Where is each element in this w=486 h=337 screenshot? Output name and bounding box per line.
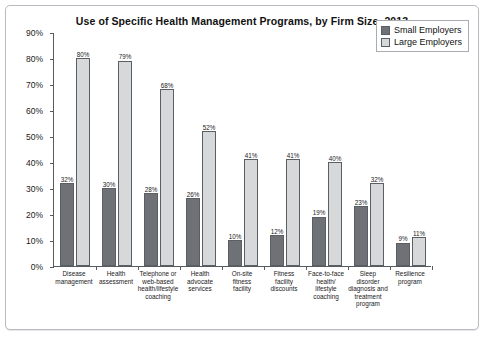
x-axis-category-label: Face-to-facehealth/lifestylecoaching [305,270,347,300]
bar-large-employers[interactable]: 80% [76,58,90,266]
bar-value-label: 26% [187,192,200,198]
x-axis-category-label: Diseasemanagement [53,270,95,285]
bar-value-label: 52% [203,125,216,131]
bar-group: 32%80% [54,33,96,266]
y-tick-mark [50,163,54,164]
y-tick-mark [50,85,54,86]
bar-group: 23%32% [348,33,390,266]
x-axis-category-label: Healthassessment [95,270,137,285]
bar-small-employers[interactable]: 26% [186,198,200,266]
bar-value-label: 68% [161,83,174,89]
bar-value-label: 11% [413,231,425,237]
bar-value-label: 41% [287,153,300,159]
legend-item-small-employers[interactable]: Small Employers [381,24,462,36]
y-tick-label: 70% [26,80,43,90]
bar-value-label: 9% [398,236,407,242]
bar-small-employers[interactable]: 9% [396,243,410,266]
bar-group: 19%40% [306,33,348,266]
bar-group: 30%79% [96,33,138,266]
y-tick-label: 0% [31,262,43,272]
y-tick-mark [50,241,54,242]
bar-small-employers[interactable]: 30% [102,188,116,266]
y-tick-label: 60% [26,106,43,116]
bar-small-employers[interactable]: 23% [354,206,368,266]
x-axis-category-label: Resilienceprogram [389,270,431,285]
bar-large-employers[interactable]: 32% [370,183,384,266]
bar-group: 12%41% [264,33,306,266]
y-tick-label: 80% [26,54,43,64]
y-tick-label: 20% [26,210,43,220]
bar-group: 9%11% [390,33,432,266]
bar-large-employers[interactable]: 68% [160,89,174,266]
y-tick-mark [50,59,54,60]
bar-large-employers[interactable]: 52% [202,131,216,266]
y-tick-mark [50,189,54,190]
x-axis-category-label: On-sitefitnessfacility [221,270,263,293]
bar-small-employers[interactable]: 32% [60,183,74,266]
bar-value-label: 30% [103,182,116,188]
bar-large-employers[interactable]: 11% [412,237,426,266]
y-tick-mark [50,111,54,112]
bar-group: 28%68% [138,33,180,266]
plot-area: 32%80%30%79%28%68%26%52%10%41%12%41%19%4… [53,33,431,267]
chart-legend: Small Employers Large Employers [376,20,469,52]
bar-small-employers[interactable]: 28% [144,193,158,266]
bar-value-label: 23% [355,200,368,206]
y-axis: 90%80%70%60%50%40%30%20%10%0% [6,33,49,267]
legend-label-large-employers: Large Employers [394,37,462,47]
x-axis-category-labels: DiseasemanagementHealthassessmentTelepho… [53,270,431,328]
bar-value-label: 32% [371,177,384,183]
legend-label-small-employers: Small Employers [394,25,462,35]
y-tick-mark [50,215,54,216]
bar-value-label: 28% [145,187,158,193]
bar-value-label: 40% [329,156,342,162]
y-tick-label: 90% [26,28,43,38]
bar-value-label: 80% [77,52,90,58]
x-tick-mark [432,266,433,270]
bar-value-label: 32% [61,177,74,183]
bar-value-label: 12% [271,229,284,235]
y-tick-label: 10% [26,236,43,246]
x-axis-category-label: Healthadvocateservices [179,270,221,293]
bars-layer: 32%80%30%79%28%68%26%52%10%41%12%41%19%4… [54,33,431,266]
bar-small-employers[interactable]: 10% [228,240,242,266]
y-tick-mark [50,267,54,268]
legend-swatch-icon-small-employers [381,26,390,35]
y-tick-label: 50% [26,132,43,142]
bar-value-label: 10% [229,234,242,240]
y-tick-label: 30% [26,184,43,194]
x-axis-category-label: Sleepdisorderdiagnosis andtreatmentprogr… [347,270,389,308]
bar-value-label: 41% [245,153,258,159]
y-tick-mark [50,33,54,34]
x-axis-category-label: Fitnessfacilitydiscounts [263,270,305,293]
bar-large-employers[interactable]: 79% [118,61,132,266]
bar-large-employers[interactable]: 41% [244,159,258,266]
bar-large-employers[interactable]: 41% [286,159,300,266]
y-tick-mark [50,137,54,138]
legend-swatch-icon-large-employers [381,38,390,47]
x-axis-category-label: Telephone orweb-basedhealth/lifestylecoa… [137,270,179,300]
chart-figure: Use of Specific Health Management Progra… [5,5,479,330]
bar-value-label: 19% [313,210,326,216]
bar-group: 10%41% [222,33,264,266]
bar-group: 26%52% [180,33,222,266]
y-tick-label: 40% [26,158,43,168]
legend-item-large-employers[interactable]: Large Employers [381,36,462,48]
bar-large-employers[interactable]: 40% [328,162,342,266]
bar-small-employers[interactable]: 19% [312,217,326,266]
bar-value-label: 79% [119,54,132,60]
bar-small-employers[interactable]: 12% [270,235,284,266]
